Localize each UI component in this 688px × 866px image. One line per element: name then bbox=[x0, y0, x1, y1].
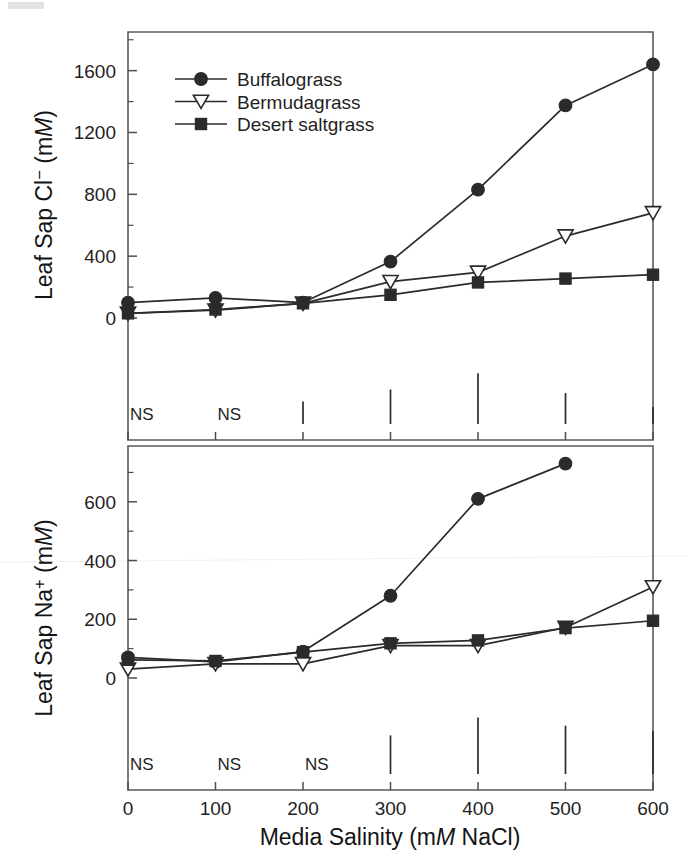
legend-label: Bermudagrass bbox=[237, 92, 361, 113]
marker-filled-circle bbox=[559, 99, 572, 112]
legend-label: Desert saltgrass bbox=[237, 114, 374, 135]
chart-canvas: 040080012001600NSNS 0200400600NSNSNS0100… bbox=[0, 0, 688, 866]
ytick-label: 600 bbox=[84, 492, 116, 513]
ytick-label: 400 bbox=[84, 551, 116, 572]
ns-label: NS bbox=[218, 405, 242, 424]
ytick-label: 1200 bbox=[74, 122, 116, 143]
ytick-label: 1600 bbox=[74, 61, 116, 82]
marker-filled-square bbox=[210, 304, 221, 315]
ns-label: NS bbox=[130, 755, 154, 774]
yaxis-title-chloride: Leaf Sap Cl− (mM) bbox=[30, 110, 57, 300]
marker-filled-square bbox=[385, 289, 396, 300]
marker-filled-circle bbox=[559, 457, 572, 470]
xtick-label: 100 bbox=[200, 798, 232, 819]
figure-root: 040080012001600NSNS 0200400600NSNSNS0100… bbox=[0, 0, 688, 866]
xtick-label: 400 bbox=[462, 798, 494, 819]
marker-filled-square bbox=[122, 308, 133, 319]
xtick-label: 300 bbox=[375, 798, 407, 819]
ns-label: NS bbox=[218, 755, 242, 774]
marker-filled-square bbox=[472, 635, 483, 646]
ytick-label: 400 bbox=[84, 246, 116, 267]
legend-label: Buffalograss bbox=[237, 69, 342, 90]
ytick-label: 0 bbox=[105, 668, 116, 689]
marker-filled-square bbox=[195, 118, 206, 129]
xtick-label: 600 bbox=[637, 798, 669, 819]
marker-filled-circle bbox=[647, 58, 660, 71]
marker-filled-square bbox=[297, 647, 308, 658]
marker-filled-square bbox=[385, 638, 396, 649]
scan-artifact bbox=[8, 2, 44, 9]
marker-filled-circle bbox=[472, 493, 485, 506]
xtick-label: 200 bbox=[287, 798, 319, 819]
marker-filled-square bbox=[297, 298, 308, 309]
xtick-label: 0 bbox=[123, 798, 134, 819]
xtick-label: 500 bbox=[550, 798, 582, 819]
marker-filled-circle bbox=[384, 255, 397, 268]
ytick-label: 200 bbox=[84, 609, 116, 630]
marker-filled-square bbox=[560, 622, 571, 633]
marker-filled-square bbox=[560, 273, 571, 284]
marker-filled-square bbox=[122, 654, 133, 665]
marker-filled-circle bbox=[384, 589, 397, 602]
marker-filled-square bbox=[647, 615, 658, 626]
ytick-label: 800 bbox=[84, 184, 116, 205]
ns-label: NS bbox=[305, 755, 329, 774]
marker-filled-circle bbox=[209, 292, 222, 305]
marker-filled-square bbox=[210, 655, 221, 666]
marker-filled-square bbox=[647, 269, 658, 280]
marker-filled-square bbox=[472, 277, 483, 288]
ytick-label: 0 bbox=[105, 308, 116, 329]
marker-filled-circle bbox=[472, 183, 485, 196]
xaxis-title: Media Salinity (mM NaCl) bbox=[260, 824, 521, 850]
marker-filled-circle bbox=[195, 73, 208, 86]
yaxis-title-sodium: Leaf Sap Na+ (mM) bbox=[30, 519, 57, 717]
ns-label: NS bbox=[130, 405, 154, 424]
